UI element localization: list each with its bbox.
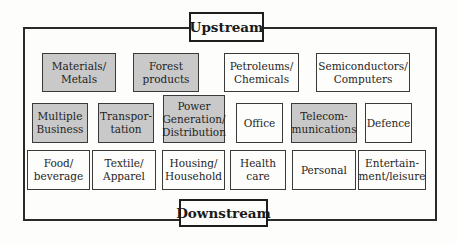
box-personal: Personal bbox=[292, 150, 356, 190]
box-office: Office bbox=[236, 103, 283, 143]
box-housing-household: Housing/ Household bbox=[162, 150, 225, 190]
box-power-generation-distribution: Power Generation/ Distribution bbox=[163, 95, 225, 143]
downstream-label: Downstream bbox=[179, 199, 268, 227]
box-defence: Defence bbox=[365, 103, 412, 143]
upstream-label: Upstream bbox=[189, 12, 264, 42]
box-transportation: Transpor- tation bbox=[98, 103, 154, 143]
box-entertainment-leisure: Entertain- ment/leisure bbox=[358, 150, 426, 190]
box-telecommunications: Telecom- munications bbox=[291, 103, 357, 143]
box-petroleums-chemicals: Petroleums/ Chemicals bbox=[224, 53, 299, 92]
box-semiconductors-computers: Semiconductors/ Computers bbox=[316, 53, 410, 92]
box-forest-products: Forest products bbox=[133, 53, 199, 92]
box-multiple-business: Multiple Business bbox=[32, 103, 88, 143]
box-food-beverage: Food/ beverage bbox=[27, 150, 90, 190]
box-textile-apparel: Textile/ Apparel bbox=[92, 150, 156, 190]
box-health-care: Health care bbox=[230, 150, 286, 190]
box-materials-metals: Materials/ Metals bbox=[42, 53, 116, 92]
